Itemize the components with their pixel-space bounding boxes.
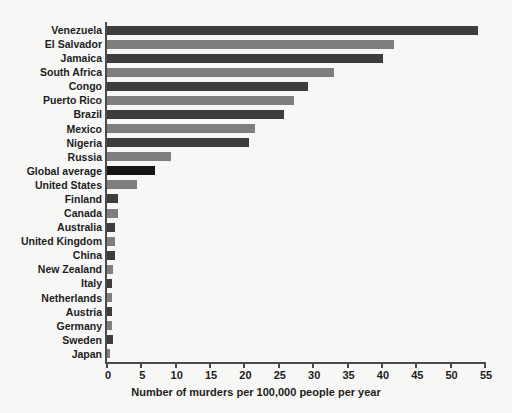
category-label: Puerto Rico xyxy=(0,93,102,107)
bar xyxy=(107,40,394,49)
category-label: Venezuela xyxy=(0,23,102,37)
bar xyxy=(107,54,383,63)
category-label: Japan xyxy=(0,347,102,361)
category-label: Sweden xyxy=(0,333,102,347)
bar-row: Russia xyxy=(0,150,512,164)
category-label: El Salvador xyxy=(0,37,102,51)
x-axis-tick-label: 55 xyxy=(466,369,506,381)
bar-row: New Zealand xyxy=(0,262,512,276)
category-label: New Zealand xyxy=(0,262,102,276)
bar-row: Canada xyxy=(0,206,512,220)
bar xyxy=(107,110,284,119)
bar-row: Netherlands xyxy=(0,291,512,305)
x-axis-tick xyxy=(175,362,177,368)
category-label: China xyxy=(0,248,102,262)
category-label: Global average xyxy=(0,164,102,178)
category-label: Nigeria xyxy=(0,136,102,150)
bar-row: United Kingdom xyxy=(0,234,512,248)
bar-row: Mexico xyxy=(0,122,512,136)
x-axis-tick xyxy=(381,362,383,368)
bar xyxy=(107,96,294,105)
x-axis-tick xyxy=(106,362,108,368)
bar xyxy=(107,82,308,91)
category-label: Australia xyxy=(0,220,102,234)
bar xyxy=(107,237,115,246)
category-label: United States xyxy=(0,178,102,192)
bar xyxy=(107,293,112,302)
bar-row: Germany xyxy=(0,319,512,333)
category-label: Jamaica xyxy=(0,51,102,65)
bar-row: Australia xyxy=(0,220,512,234)
bar-row: Austria xyxy=(0,305,512,319)
category-label: Netherlands xyxy=(0,291,102,305)
x-axis-tick xyxy=(484,362,486,368)
bar-row: Japan xyxy=(0,347,512,361)
bar xyxy=(107,335,113,344)
bar-row: Congo xyxy=(0,79,512,93)
bar xyxy=(107,307,112,316)
category-label: Canada xyxy=(0,206,102,220)
bar-row: South Africa xyxy=(0,65,512,79)
bar-row: El Salvador xyxy=(0,37,512,51)
category-label: Germany xyxy=(0,319,102,333)
bar-row: Brazil xyxy=(0,107,512,121)
x-axis-tick xyxy=(140,362,142,368)
bar xyxy=(107,26,478,35)
bar-row: Sweden xyxy=(0,333,512,347)
category-label: Italy xyxy=(0,276,102,290)
bar xyxy=(107,349,110,358)
x-axis-tick xyxy=(278,362,280,368)
bar-row: United States xyxy=(0,178,512,192)
x-axis-tick xyxy=(243,362,245,368)
category-label: South Africa xyxy=(0,65,102,79)
category-label: Russia xyxy=(0,150,102,164)
bar xyxy=(107,223,115,232)
category-label: Finland xyxy=(0,192,102,206)
bar-row: Venezuela xyxy=(0,23,512,37)
x-axis-line xyxy=(105,362,486,364)
bar-row: Nigeria xyxy=(0,136,512,150)
bar xyxy=(107,265,113,274)
x-axis-tick xyxy=(415,362,417,368)
category-label: Brazil xyxy=(0,107,102,121)
category-label: United Kingdom xyxy=(0,234,102,248)
x-axis-tick xyxy=(347,362,349,368)
category-label: Mexico xyxy=(0,122,102,136)
murder-rate-bar-chart: VenezuelaEl SalvadorJamaicaSouth AfricaC… xyxy=(0,0,512,413)
plot-area: VenezuelaEl SalvadorJamaicaSouth AfricaC… xyxy=(0,0,512,365)
bar-row: Jamaica xyxy=(0,51,512,65)
bar xyxy=(107,124,255,133)
category-label: Congo xyxy=(0,79,102,93)
x-axis-tick xyxy=(312,362,314,368)
bar xyxy=(107,152,171,161)
bar xyxy=(107,321,112,330)
bar xyxy=(107,138,249,147)
bar xyxy=(107,68,334,77)
bar-row: China xyxy=(0,248,512,262)
bar-row: Puerto Rico xyxy=(0,93,512,107)
bar xyxy=(107,194,118,203)
bar xyxy=(107,279,112,288)
bar-row: Italy xyxy=(0,276,512,290)
bar-row: Global average xyxy=(0,164,512,178)
bar xyxy=(107,251,115,260)
category-label: Austria xyxy=(0,305,102,319)
bar xyxy=(107,209,118,218)
x-axis-title: Number of murders per 100,000 people per… xyxy=(0,386,512,398)
x-axis-tick xyxy=(450,362,452,368)
bar xyxy=(107,180,137,189)
x-axis-tick xyxy=(209,362,211,368)
bar-row: Finland xyxy=(0,192,512,206)
bar xyxy=(107,166,155,175)
